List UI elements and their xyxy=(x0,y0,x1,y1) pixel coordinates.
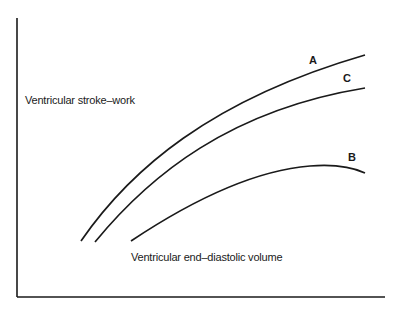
chart-canvas xyxy=(0,0,394,313)
y-axis-label: Ventricular stroke–work xyxy=(25,94,135,106)
curve-c-label: C xyxy=(343,72,351,84)
curve-a xyxy=(81,55,365,241)
curve-b xyxy=(131,165,365,241)
x-axis-label: Ventricular end–diastolic volume xyxy=(131,251,282,263)
curve-a-label: A xyxy=(309,54,317,66)
curve-b-label: B xyxy=(348,151,356,163)
